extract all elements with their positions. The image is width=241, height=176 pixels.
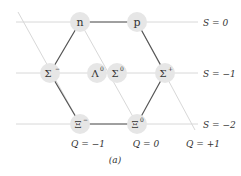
particle-sigma-minus-sup: −	[55, 65, 60, 72]
particle-xi-minus: Ξ −	[70, 114, 90, 134]
particle-lambda-0-sup: 0	[100, 65, 104, 72]
charge-labels: Q = −1 Q = 0 Q = +1	[71, 139, 220, 149]
particle-sigma-0-label: Σ	[111, 68, 118, 79]
label-q0: Q = 0	[133, 139, 160, 149]
label-q-1: Q = −1	[71, 139, 105, 149]
particle-p-label: p	[133, 16, 140, 29]
particle-xi-0-sup: 0	[140, 116, 144, 123]
particle-sigma-plus: Σ +	[155, 63, 175, 83]
particle-xi-minus-sup: −	[83, 116, 88, 123]
particle-sigma-plus-sup: +	[168, 65, 173, 72]
particle-xi-0-label: Ξ	[131, 119, 138, 130]
particle-sigma-0: Σ 0	[107, 63, 127, 83]
figure-caption: (a)	[109, 155, 122, 165]
particle-p: p	[127, 12, 147, 32]
particle-sigma-minus-label: Σ	[44, 68, 51, 79]
particle-xi-minus-label: Ξ	[74, 119, 81, 130]
particle-xi-0: Ξ 0	[127, 114, 147, 134]
label-s-2: S = −2	[203, 120, 236, 130]
particle-sigma-0-sup: 0	[120, 65, 124, 72]
baryon-octet-diagram: n p Σ − Λ 0 Σ 0 Σ + Ξ −	[0, 0, 241, 176]
label-s-1: S = −1	[203, 69, 236, 79]
particle-n-label: n	[76, 16, 83, 29]
particle-n: n	[70, 12, 90, 32]
particle-lambda-0: Λ 0	[87, 63, 107, 83]
label-s0: S = 0	[203, 18, 228, 28]
label-q1: Q = +1	[186, 139, 220, 149]
strangeness-labels: S = 0 S = −1 S = −2	[203, 18, 236, 130]
particle-lambda-0-label: Λ	[90, 68, 99, 79]
particle-sigma-plus-label: Σ	[159, 68, 166, 79]
particle-sigma-minus: Σ −	[40, 63, 60, 83]
